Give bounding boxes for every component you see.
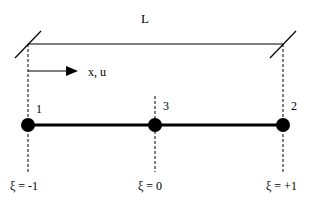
- axis-label: x, u: [88, 66, 106, 78]
- node-1: [21, 118, 35, 132]
- node-label-2: 2: [291, 100, 297, 112]
- node-label-1: 1: [36, 103, 42, 115]
- length-label: L: [141, 12, 149, 25]
- xi-label-node-1: ξ = -1: [10, 180, 38, 192]
- node-2: [276, 118, 290, 132]
- node-label-3: 3: [163, 100, 169, 112]
- axis-arrow-head-icon: [66, 66, 78, 76]
- xi-label-node-3: ξ = 0: [138, 180, 162, 192]
- xi-label-node-2: ξ = +1: [266, 180, 297, 192]
- node-3: [148, 118, 162, 132]
